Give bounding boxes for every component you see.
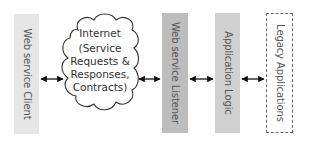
legacy-applications-label: Legacy Applications bbox=[274, 24, 285, 122]
application-logic-label: Application Logic bbox=[222, 31, 233, 115]
web-service-listener-box: Web service Listener bbox=[162, 13, 188, 133]
legacy-applications-box: Legacy Applications bbox=[266, 13, 293, 133]
web-service-listener-label: Web service Listener bbox=[170, 22, 181, 124]
web-service-client-box: Web service Client bbox=[14, 14, 39, 134]
internet-detail-line: Responses, bbox=[62, 68, 138, 81]
internet-detail-line: (Service bbox=[62, 42, 138, 55]
internet-detail-line: Requests & bbox=[62, 55, 138, 68]
internet-cloud-text: Internet (Service Requests & Responses, … bbox=[62, 27, 138, 94]
internet-label: Internet bbox=[62, 27, 138, 40]
internet-detail-line: Contracts) bbox=[62, 81, 138, 94]
diagram-canvas bbox=[0, 0, 310, 146]
web-service-client-label: Web service Client bbox=[21, 28, 32, 119]
application-logic-box: Application Logic bbox=[215, 13, 240, 133]
